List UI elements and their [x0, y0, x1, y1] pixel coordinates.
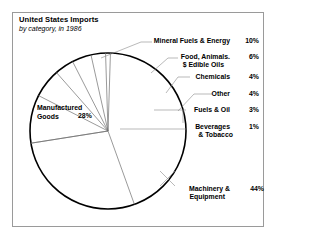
callout-beverages-tobacco-pct: 1% [237, 123, 259, 131]
callout-fuels-oil-label: Fuels & Oil [194, 106, 230, 114]
callout-chemicals-label: Chemicals [196, 73, 230, 81]
slice-label-manufactured-goods-line2: Goods [37, 112, 82, 121]
callout-machinery-equipment-label-line2: Equipment [189, 193, 225, 201]
callout-mineral-fuels-label: Mineral Fuels & Energy [154, 37, 230, 45]
callout-food-animals-pct: 6% [237, 53, 259, 61]
callout-machinery-equipment-label-line1: Machinery & [189, 185, 230, 193]
callout-chemicals-pct: 4% [237, 73, 259, 81]
slice-label-manufactured-goods-line1: Manufactured [37, 103, 82, 112]
leader-food [151, 58, 168, 73]
callout-fuels-oil-pct: 3% [237, 106, 259, 114]
callout-beverages-tobacco-label-line1: Beverages [195, 123, 230, 131]
callout-food-animals-label-line1: Food, Animals. [181, 53, 230, 61]
callout-machinery-equipment-pct: 44% [242, 185, 264, 193]
slice-label-manufactured-goods-pct: 28% [78, 112, 92, 119]
callout-other-pct: 4% [237, 90, 259, 98]
callout-food-animals-label-line2: $ Edible Oils [183, 61, 224, 69]
callout-other-label: Other [212, 90, 230, 98]
callout-beverages-tobacco-label-line2: & Tobacco [198, 131, 233, 139]
slice-label-manufactured-goods: Manufactured Goods [37, 103, 82, 122]
callout-mineral-fuels-pct: 10% [237, 37, 259, 45]
